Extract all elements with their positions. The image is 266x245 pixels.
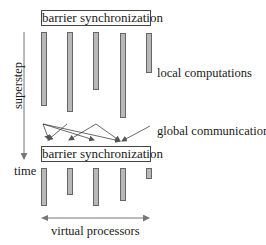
- superstep-axis-label: superstep: [11, 58, 26, 114]
- virtual-processors-axis-arrow: [41, 215, 149, 221]
- virtual-processors-label: virtual processors: [51, 224, 140, 239]
- processor-1-next-superstep-bar: [41, 168, 47, 206]
- global-communication-arrows: [43, 124, 150, 141]
- processor-2-next-superstep-bar: [67, 168, 73, 195]
- arrows-layer: [0, 0, 266, 245]
- bottom-barrier-synchronization-box: barrier synchronization: [41, 146, 151, 162]
- processor-5-next-superstep-bar: [146, 168, 152, 179]
- processor-3-next-superstep-bar: [93, 168, 99, 206]
- time-label: time: [14, 164, 36, 179]
- processor-4-next-superstep-bar: [120, 168, 126, 201]
